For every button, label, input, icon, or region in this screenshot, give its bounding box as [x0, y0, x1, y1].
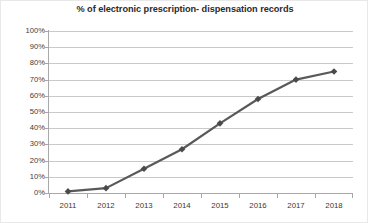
x-axis-tick-labels: 20112012201320142015201620172018 [49, 201, 353, 215]
x-tick-label: 2012 [97, 201, 114, 210]
x-tick-mark [239, 194, 240, 198]
x-tick-label: 2017 [287, 201, 304, 210]
x-tick-mark [201, 194, 202, 198]
x-tick-mark [125, 194, 126, 198]
x-tick-label: 2014 [173, 201, 190, 210]
chart-figure: % of electronic prescription- dispensati… [0, 0, 368, 223]
y-axis-tick-marks [1, 31, 49, 193]
x-tick-label: 2013 [135, 201, 152, 210]
x-tick-label: 2018 [325, 201, 342, 210]
x-axis-tick-marks [49, 194, 353, 199]
data-point-marker [331, 68, 338, 75]
line-series-layer [49, 31, 353, 193]
x-tick-mark [87, 194, 88, 198]
x-tick-label: 2015 [211, 201, 228, 210]
x-tick-mark [49, 194, 50, 198]
x-tick-mark [163, 194, 164, 198]
series-line [68, 72, 334, 192]
x-tick-mark [277, 194, 278, 198]
chart-title: % of electronic prescription- dispensati… [1, 4, 368, 14]
x-tick-label: 2016 [249, 201, 266, 210]
x-tick-mark [352, 194, 353, 198]
x-tick-mark [315, 194, 316, 198]
x-tick-label: 2011 [60, 201, 77, 210]
